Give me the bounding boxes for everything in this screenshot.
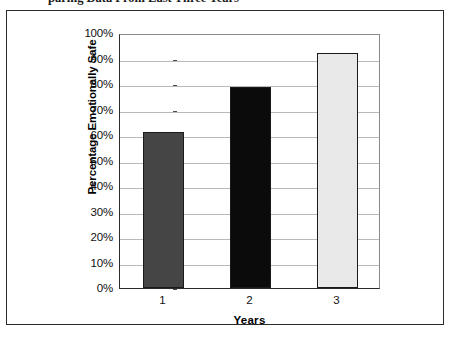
bar-1	[143, 132, 184, 288]
bar-2	[230, 87, 271, 288]
y-axis-tick-label: 100%	[67, 28, 113, 40]
figure-frame: Percentage Emotionally Safe 100%90%80%70…	[6, 10, 444, 325]
y-axis-tick-label: 70%	[67, 105, 113, 117]
y-axis-tick-label: 10%	[67, 258, 113, 270]
x-axis-tick-labels: 123	[119, 294, 380, 312]
x-axis-tick-label: 1	[143, 294, 183, 306]
y-axis-tick-label: 20%	[67, 232, 113, 244]
y-axis-tick-label: 30%	[67, 207, 113, 219]
y-axis-tick-label: 60%	[67, 130, 113, 142]
y-axis-tick-label: 0%	[67, 283, 113, 295]
x-axis-title: Years	[119, 314, 380, 326]
y-axis-tick-labels: 100%90%80%70%60%50%40%30%20%10%0%	[65, 34, 113, 289]
plot-area	[119, 34, 380, 289]
bar-series	[120, 35, 379, 288]
caption-strip: paring Data From Last Three Years	[0, 0, 452, 9]
x-axis-tick-label: 3	[317, 294, 357, 306]
y-axis-tick-label: 90%	[67, 54, 113, 66]
y-axis-tick-label: 40%	[67, 181, 113, 193]
figure-caption-text: paring Data From Last Three Years	[48, 0, 239, 6]
y-axis-tick-label: 50%	[67, 156, 113, 168]
y-axis-tick-mark	[173, 289, 177, 290]
x-axis-tick-label: 2	[230, 294, 270, 306]
bar-3	[317, 53, 358, 288]
y-axis-tick-label: 80%	[67, 79, 113, 91]
